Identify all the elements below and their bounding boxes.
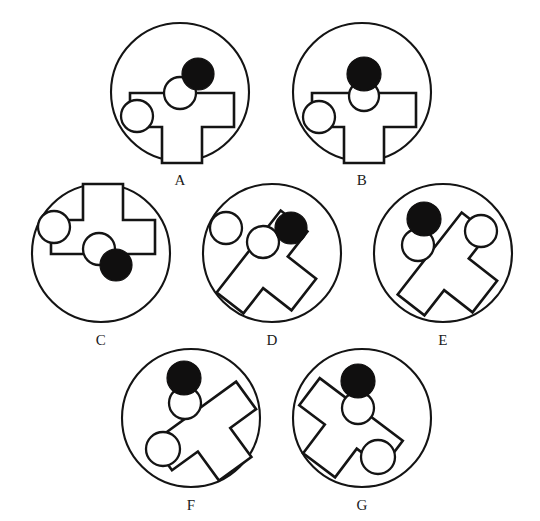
figure-label-g: G xyxy=(356,497,367,513)
filled-dot xyxy=(341,364,375,398)
figure-sheet: ABCDEFG xyxy=(0,0,540,521)
open-dot-side xyxy=(38,211,70,243)
filled-dot xyxy=(407,202,441,236)
open-dot-side xyxy=(146,432,180,466)
figure-label-a: A xyxy=(174,172,185,188)
filled-dot xyxy=(275,212,307,244)
figure-label-b: B xyxy=(357,172,367,188)
open-dot-side xyxy=(210,212,242,244)
filled-dot xyxy=(167,361,201,395)
open-dot-top xyxy=(247,226,279,258)
figure-label-c: C xyxy=(96,332,106,348)
open-dot-side xyxy=(121,100,153,132)
figure-label-d: D xyxy=(266,332,277,348)
open-dot-side xyxy=(303,101,335,133)
filled-dot xyxy=(100,249,132,281)
filled-dot xyxy=(182,58,214,90)
figure-label-f: F xyxy=(187,497,196,513)
figure-label-e: E xyxy=(438,332,447,348)
filled-dot xyxy=(347,57,381,91)
open-dot-side xyxy=(465,215,497,247)
open-dot-side xyxy=(361,440,395,474)
